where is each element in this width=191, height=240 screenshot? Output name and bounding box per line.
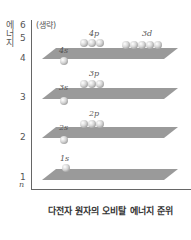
label-4s: 4s <box>59 46 68 55</box>
plane-n1 <box>42 169 178 180</box>
label-2p: 2p <box>89 109 99 118</box>
label-4p: 4p <box>89 29 99 38</box>
label-3d: 3d <box>142 29 152 38</box>
label-1s: 1s <box>60 154 69 163</box>
label-3s: 3s <box>59 83 68 92</box>
label-2s: 2s <box>59 123 68 132</box>
sphere-4s <box>60 57 68 65</box>
label-3p: 3p <box>89 69 99 78</box>
diagram-caption: 다전자 원자의 오비탈 에너지 준위 <box>30 204 191 217</box>
